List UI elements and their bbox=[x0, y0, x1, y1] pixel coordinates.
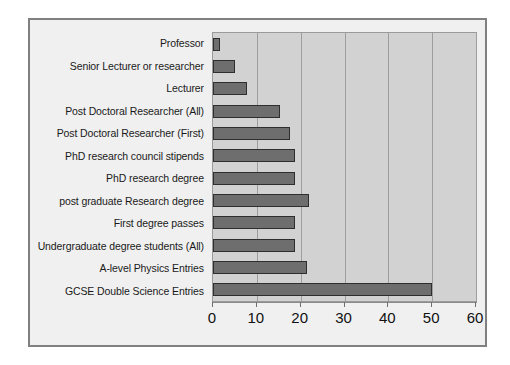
bar bbox=[213, 60, 235, 73]
bar bbox=[213, 105, 280, 118]
bar bbox=[213, 38, 220, 51]
bar-row bbox=[213, 189, 476, 211]
category-label: Professor bbox=[30, 32, 210, 55]
x-axis-tick-label: 30 bbox=[335, 309, 352, 326]
bar bbox=[213, 216, 295, 229]
x-axis-tick-label: 60 bbox=[467, 309, 484, 326]
x-axis-tick bbox=[344, 302, 345, 307]
bar bbox=[213, 127, 290, 140]
x-axis-tick bbox=[212, 302, 213, 307]
gridline bbox=[476, 33, 477, 301]
x-axis-tick bbox=[387, 302, 388, 307]
x-axis-tick-labels: 0102030405060 bbox=[212, 309, 477, 331]
bar-row bbox=[213, 212, 476, 234]
x-axis-tick bbox=[475, 302, 476, 307]
bar-row bbox=[213, 100, 476, 122]
figure-frame: Professor Senior Lecturer or researcher … bbox=[28, 18, 487, 347]
chart-screenshot: Professor Senior Lecturer or researcher … bbox=[0, 0, 510, 365]
bar-row bbox=[213, 78, 476, 100]
category-axis-labels: Professor Senior Lecturer or researcher … bbox=[30, 32, 210, 302]
category-label: Senior Lecturer or researcher bbox=[30, 55, 210, 78]
bar bbox=[213, 82, 247, 95]
x-axis-tick bbox=[431, 302, 432, 307]
category-label: Undergraduate degree students (All) bbox=[30, 235, 210, 258]
bar bbox=[213, 149, 295, 162]
category-label: A-level Physics Entries bbox=[30, 257, 210, 280]
bar-row bbox=[213, 145, 476, 167]
bar-row bbox=[213, 122, 476, 144]
category-label: Post Doctoral Researcher (First) bbox=[30, 122, 210, 145]
bar-row bbox=[213, 33, 476, 55]
category-label: Post Doctoral Researcher (All) bbox=[30, 100, 210, 123]
bar-row bbox=[213, 256, 476, 278]
x-axis-tick-label: 50 bbox=[423, 309, 440, 326]
bar-row bbox=[213, 279, 476, 301]
bar bbox=[213, 239, 295, 252]
category-label: GCSE Double Science Entries bbox=[30, 280, 210, 303]
bar bbox=[213, 261, 307, 274]
category-label: PhD research council stipends bbox=[30, 145, 210, 168]
bar-row bbox=[213, 167, 476, 189]
x-axis-ticks bbox=[212, 302, 477, 308]
x-axis-tick-label: 40 bbox=[379, 309, 396, 326]
category-label: PhD research degree bbox=[30, 167, 210, 190]
bar bbox=[213, 172, 295, 185]
category-label: First degree passes bbox=[30, 212, 210, 235]
x-axis-tick bbox=[256, 302, 257, 307]
x-axis-tick bbox=[300, 302, 301, 307]
bar bbox=[213, 194, 309, 207]
x-axis-tick-label: 10 bbox=[247, 309, 264, 326]
category-label: Lecturer bbox=[30, 77, 210, 100]
bar-row bbox=[213, 55, 476, 77]
x-axis-tick-label: 0 bbox=[208, 309, 216, 326]
bar-row bbox=[213, 234, 476, 256]
bar bbox=[213, 283, 432, 296]
plot-area bbox=[212, 32, 477, 302]
bar-series bbox=[213, 33, 476, 301]
x-axis-tick-label: 20 bbox=[291, 309, 308, 326]
category-label: post graduate Research degree bbox=[30, 190, 210, 213]
